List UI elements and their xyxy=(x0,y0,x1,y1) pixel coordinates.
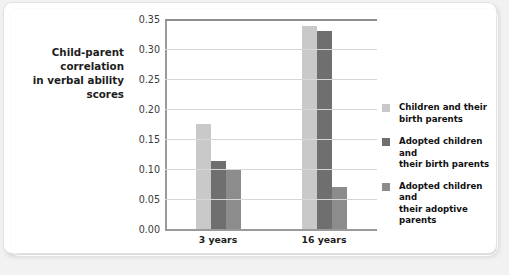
legend-label-line2: their birth parents xyxy=(399,159,502,171)
legend-label-line1: Adopted children and xyxy=(399,136,502,159)
x-axis-category-labels: 3 years16 years xyxy=(165,234,377,254)
y-tick-label: 0.30 xyxy=(139,44,160,55)
bar xyxy=(211,161,226,229)
legend-item[interactable]: Adopted children andtheir birth parents xyxy=(382,136,502,171)
y-tick-label: 0.05 xyxy=(139,194,160,205)
chart-page: Child-parent correlation in verbal abili… xyxy=(0,0,509,275)
legend-label-line2: birth parents xyxy=(399,114,502,126)
legend-label: Adopted children andtheir birth parents xyxy=(399,136,502,171)
y-tick-label: 0.20 xyxy=(139,104,160,115)
plot-wrapper: 0.350.300.250.200.150.100.050.00 3 years… xyxy=(127,19,387,259)
y-axis-title: Child-parent correlation in verbal abili… xyxy=(6,45,124,101)
grid-line xyxy=(165,199,377,200)
x-category-label: 3 years xyxy=(199,234,237,245)
grid-line xyxy=(165,109,377,110)
grid-line xyxy=(165,49,377,50)
y-tick-label: 0.10 xyxy=(139,164,160,175)
y-tick-label: 0.00 xyxy=(139,224,160,235)
legend-label-line1: Children and their xyxy=(399,102,502,114)
legend-item[interactable]: Adopted children andtheir adoptive paren… xyxy=(382,181,502,227)
chart-card: Child-parent correlation in verbal abili… xyxy=(3,2,497,254)
legend-item[interactable]: Children and theirbirth parents xyxy=(382,102,502,126)
y-axis-title-line1: Child-parent correlation xyxy=(6,45,124,73)
legend-label: Children and theirbirth parents xyxy=(399,102,502,125)
bar xyxy=(332,187,347,229)
legend-label: Adopted children andtheir adoptive paren… xyxy=(399,181,502,227)
grid-line xyxy=(165,139,377,140)
legend-label-line2: their adoptive parents xyxy=(399,204,502,227)
chart-legend: Children and theirbirth parentsAdopted c… xyxy=(382,102,502,237)
grid-line xyxy=(165,79,377,80)
y-tick-label: 0.15 xyxy=(139,134,160,145)
plot-area xyxy=(165,19,377,231)
y-axis-tick-labels: 0.350.300.250.200.150.100.050.00 xyxy=(127,19,160,231)
y-tick-label: 0.35 xyxy=(139,14,160,25)
legend-swatch-icon xyxy=(382,138,390,146)
legend-swatch-icon xyxy=(382,183,390,191)
y-tick-label: 0.25 xyxy=(139,74,160,85)
plot-top-rule xyxy=(165,19,377,21)
grid-line xyxy=(165,169,377,170)
x-category-label: 16 years xyxy=(302,234,347,245)
legend-swatch-icon xyxy=(382,104,390,112)
legend-label-line1: Adopted children and xyxy=(399,181,502,204)
y-axis-title-line2: in verbal ability scores xyxy=(6,73,124,101)
